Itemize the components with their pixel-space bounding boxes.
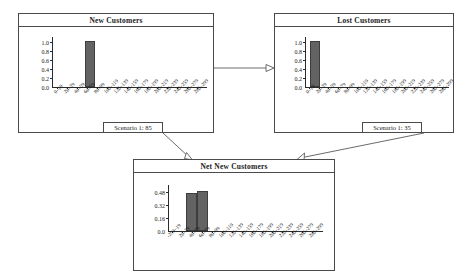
ytick-label: 0.4 bbox=[27, 67, 49, 73]
ytick-label: 0.0 bbox=[27, 85, 49, 91]
ytick-label: 0.2 bbox=[27, 76, 49, 82]
ytick-label: 0.16 bbox=[139, 216, 165, 222]
diagram-canvas: New Customers 1.0 0.8 0.6 0.4 0.2 0.0 bbox=[0, 0, 467, 279]
ytick-label: 1.0 bbox=[280, 40, 302, 46]
plot-net-new-customers: 0.48 0.32 0.16 0.0 bbox=[134, 173, 334, 271]
plot-new-customers: 1.0 0.8 0.6 0.4 0.2 0.0 bbox=[19, 27, 213, 133]
plot-lost-customers: 1.0 0.8 0.6 0.4 0.2 0.0 bbox=[275, 27, 453, 133]
ytick-label: 0.0 bbox=[139, 229, 165, 235]
ytick-label: 0.48 bbox=[139, 190, 165, 196]
scenario-chip-new-customers[interactable]: Scenario 1: 85 bbox=[103, 122, 163, 133]
bar-20-39 bbox=[310, 41, 320, 87]
chart-title-lost-customers: Lost Customers bbox=[275, 14, 453, 27]
chart-title-new-customers: New Customers bbox=[19, 14, 213, 27]
ytick-label: 0.4 bbox=[280, 67, 302, 73]
ytick-label: 0.32 bbox=[139, 203, 165, 209]
panel-lost-customers[interactable]: Lost Customers 1.0 0.8 0.6 0.4 0.2 0.0 bbox=[274, 13, 454, 133]
ytick-label: 0.2 bbox=[280, 76, 302, 82]
ytick-label: 0.6 bbox=[280, 58, 302, 64]
ytick-label: 0.8 bbox=[280, 49, 302, 55]
y-axis bbox=[305, 37, 306, 87]
bar-80-99 bbox=[85, 41, 95, 87]
y-axis bbox=[168, 185, 169, 231]
ytick-label: 0.6 bbox=[27, 58, 49, 64]
ytick-label: 1.0 bbox=[27, 40, 49, 46]
panel-new-customers[interactable]: New Customers 1.0 0.8 0.6 0.4 0.2 0.0 bbox=[18, 13, 214, 133]
y-axis bbox=[52, 37, 53, 87]
chart-title-net-new-customers: Net New Customers bbox=[134, 160, 334, 173]
scenario-chip-lost-customers[interactable]: Scenario 1: 35 bbox=[362, 122, 422, 133]
ytick-label: 0.8 bbox=[27, 49, 49, 55]
panel-net-new-customers[interactable]: Net New Customers 0.48 0.32 0.16 0.0 bbox=[133, 159, 335, 271]
ytick-label: 0.0 bbox=[280, 85, 302, 91]
